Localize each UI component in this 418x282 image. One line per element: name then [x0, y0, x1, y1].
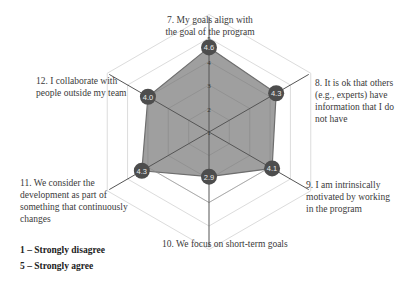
- axis-label-q12: 12. I collaborate with people outside my…: [36, 75, 127, 99]
- value-label: 4.0: [143, 93, 153, 102]
- tick-label: 3: [207, 82, 211, 90]
- axis-label-q7: 7. My goals align with the goal of the p…: [154, 14, 266, 38]
- value-label: 4.1: [267, 164, 277, 173]
- tick-label: 1: [207, 129, 211, 137]
- scale-legend-low: 1 – Strongly disagree: [20, 245, 105, 255]
- scale-legend-high: 5 – Strongly agree: [20, 261, 93, 271]
- value-label: 4.3: [137, 167, 147, 176]
- axis-label-q9: 9. I am intrinsically motivated by worki…: [306, 179, 390, 215]
- axis-label-q8: 8. It is ok that others (e.g., experts) …: [315, 77, 394, 125]
- value-label: 4.3: [271, 89, 281, 98]
- value-label: 4.6: [204, 43, 214, 52]
- value-label: 2.9: [204, 173, 214, 182]
- axis-label-q10: 10. We focus on short-term goals: [162, 238, 288, 250]
- tick-label: 2: [207, 106, 211, 114]
- axis-label-q11: 11. We consider the development as part …: [20, 177, 128, 225]
- tick-label: 4: [207, 59, 211, 67]
